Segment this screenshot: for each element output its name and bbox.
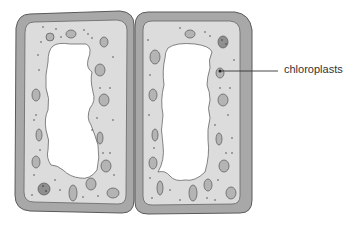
chloroplast xyxy=(107,188,119,198)
chloroplast xyxy=(66,30,76,38)
chloroplast xyxy=(95,64,105,76)
chloroplast xyxy=(32,156,40,168)
chloroplast xyxy=(216,133,222,145)
chloroplast xyxy=(150,50,160,64)
chloroplast xyxy=(32,89,40,101)
chloroplast xyxy=(149,157,157,169)
chloroplast xyxy=(86,178,96,190)
chloroplast xyxy=(157,181,163,195)
chloroplast xyxy=(99,94,109,106)
chloroplast xyxy=(218,94,228,106)
chloroplasts-label: chloroplasts xyxy=(284,63,343,75)
chloroplast xyxy=(101,160,111,172)
right-cell xyxy=(135,12,252,214)
right-vacuole xyxy=(158,44,212,181)
plant-cells-diagram xyxy=(0,0,351,226)
chloroplast xyxy=(189,185,197,201)
left-cell xyxy=(15,11,134,213)
chloroplast xyxy=(204,179,212,191)
chloroplast xyxy=(185,30,195,38)
chloroplast xyxy=(218,36,228,48)
chloroplast xyxy=(36,129,42,141)
chloroplast xyxy=(152,129,158,141)
chloroplast xyxy=(226,187,236,199)
chloroplast xyxy=(149,89,157,101)
chloroplast xyxy=(46,33,54,41)
chloroplast xyxy=(219,160,229,172)
chloroplast xyxy=(97,132,103,144)
chloroplast xyxy=(100,37,108,47)
chloroplast xyxy=(38,183,50,195)
chloroplast xyxy=(69,185,77,201)
